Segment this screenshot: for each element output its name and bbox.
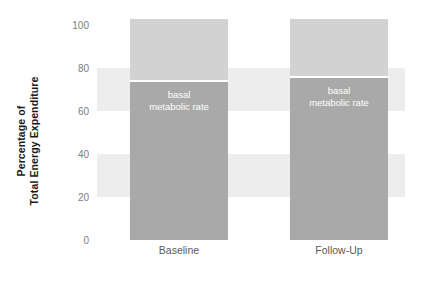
bar-baseline-segment-bmr[interactable]: basal metabolic rate [130, 80, 228, 240]
x-axis-tick-labels: Baseline Follow-Up [97, 244, 405, 264]
y-axis-title-line-2: Total Energy Expenditure [28, 77, 41, 206]
bar-follow-up-segment-remaining[interactable] [290, 19, 388, 76]
x-tick-follow-up: Follow-Up [279, 244, 399, 256]
x-tick-baseline: Baseline [119, 244, 239, 256]
bar-follow-up-bmr-label: basal metabolic rate [290, 85, 388, 109]
bar-baseline-bmr-label-line-1: basal [130, 89, 228, 101]
bar-follow-up-bmr-label-line-1: basal [290, 85, 388, 97]
bar-baseline-bmr-label-line-2: metabolic rate [130, 101, 228, 113]
y-tick-40: 40 [78, 149, 89, 160]
bar-baseline[interactable]: basal metabolic rate [130, 19, 228, 240]
plot-area: basal metabolic rate basal metabolic rat… [97, 18, 405, 241]
chart-figure: Percentage of Total Energy Expenditure 1… [0, 0, 429, 282]
y-axis-title-line-1: Percentage of [15, 77, 28, 206]
y-tick-60: 60 [78, 106, 89, 117]
bar-follow-up-bmr-label-line-2: metabolic rate [290, 97, 388, 109]
bar-follow-up[interactable]: basal metabolic rate [290, 19, 388, 240]
y-tick-80: 80 [78, 63, 89, 74]
y-axis-title: Percentage of Total Energy Expenditure [0, 0, 56, 282]
y-tick-0: 0 [83, 235, 89, 246]
bar-follow-up-segment-bmr[interactable]: basal metabolic rate [290, 76, 388, 240]
y-tick-100: 100 [72, 20, 89, 31]
y-axis-tick-labels: 100 80 60 40 20 0 [56, 0, 93, 282]
y-tick-20: 20 [78, 192, 89, 203]
bar-baseline-segment-remaining[interactable] [130, 19, 228, 80]
bar-baseline-bmr-label: basal metabolic rate [130, 89, 228, 113]
